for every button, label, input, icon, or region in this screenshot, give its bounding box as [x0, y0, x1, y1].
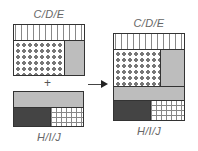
- result-gray-band-section: [114, 86, 184, 100]
- result-block: [113, 33, 185, 121]
- left-bottom-block: [13, 91, 84, 127]
- gray-band-section: [14, 92, 83, 107]
- left-top-label: C/D/E: [19, 8, 79, 20]
- left-top-block: [13, 24, 85, 76]
- result-top-label: C/D/E: [119, 17, 179, 29]
- result-dark-section: [114, 100, 150, 120]
- plus-sign: +: [44, 76, 51, 90]
- grid-pattern-section: [50, 107, 83, 126]
- result-plus-pattern-section: [114, 34, 184, 49]
- right-arrow-icon: [101, 80, 108, 88]
- result-bottom-label: H/I/J: [119, 125, 179, 137]
- dot-pattern-section: [14, 40, 64, 75]
- left-bottom-label: H/I/J: [19, 131, 79, 143]
- result-gray-section: [160, 49, 184, 86]
- result-dot-pattern-section: [114, 49, 160, 86]
- plus-pattern-section: [14, 25, 84, 40]
- result-grid-pattern-section: [150, 100, 184, 120]
- gray-section: [64, 40, 84, 75]
- dark-section: [14, 107, 50, 126]
- arrow-line: [88, 84, 102, 85]
